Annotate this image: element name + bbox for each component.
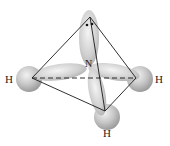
hydrogen-label-left: H xyxy=(5,74,13,85)
hydrogen-label-right: H xyxy=(155,74,163,85)
hydrogen-label-bottom: H xyxy=(103,128,111,139)
lone-pair-dot xyxy=(86,24,89,27)
ammonia-tetrahedral-diagram: N H H H xyxy=(0,0,170,146)
orbital-illustration xyxy=(0,0,170,146)
nitrogen-label: N xyxy=(85,59,92,69)
lone-pair-dot xyxy=(91,23,94,26)
